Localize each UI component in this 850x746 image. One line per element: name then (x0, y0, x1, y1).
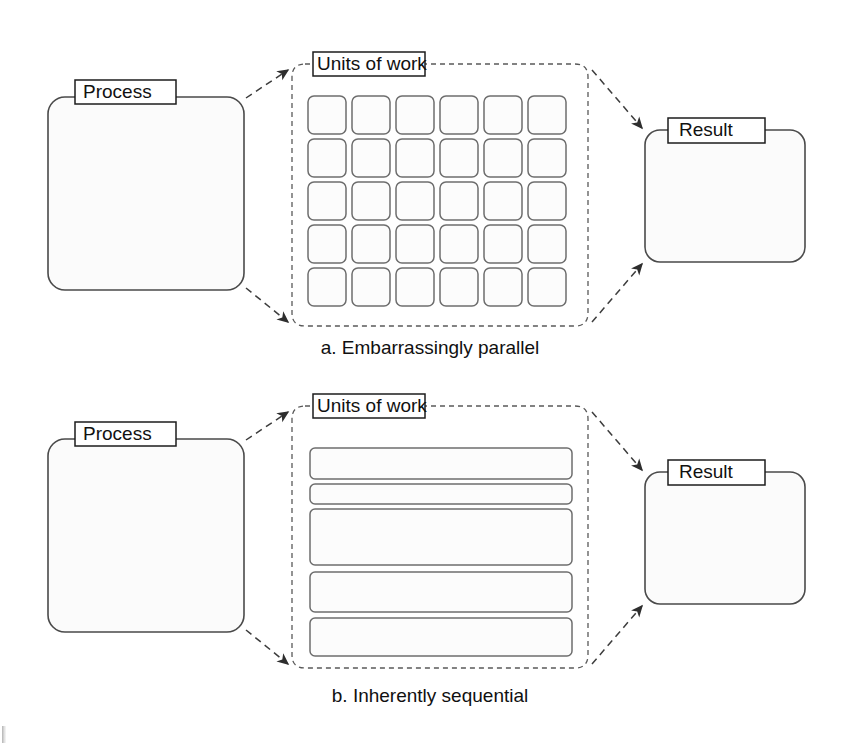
connector-process-to-units-bottom (246, 630, 288, 664)
unit-cell (308, 96, 346, 134)
unit-cell (484, 182, 522, 220)
unit-cell (484, 268, 522, 306)
unit-cell (528, 182, 566, 220)
diagram-svg: Process Units of work (0, 0, 850, 746)
connector-units-to-result-bottom (592, 606, 642, 664)
unit-cell (440, 225, 478, 263)
unit-cell (484, 96, 522, 134)
unit-cell (528, 139, 566, 177)
result-label: Result (679, 461, 734, 482)
unit-cell (528, 225, 566, 263)
scan-edge-artifact (2, 726, 6, 743)
unit-cell (396, 268, 434, 306)
result-body (645, 472, 805, 604)
unit-cell (396, 225, 434, 263)
panel-b: Process Units of work Result (48, 394, 805, 706)
unit-cell (484, 139, 522, 177)
unit-cell (352, 225, 390, 263)
unit-cell (352, 268, 390, 306)
units-label: Units of work (317, 53, 427, 74)
unit-bar (310, 484, 572, 504)
process-label: Process (83, 81, 152, 102)
unit-cell (484, 225, 522, 263)
result-box-b: Result (645, 460, 805, 604)
unit-cell (440, 182, 478, 220)
process-body (48, 97, 244, 290)
unit-cell (308, 268, 346, 306)
unit-cell (528, 96, 566, 134)
process-box-b: Process (48, 422, 244, 632)
connector-process-to-units-bottom (246, 288, 288, 322)
process-body (48, 439, 244, 632)
panel-a: Process Units of work (48, 52, 805, 358)
unit-cell (440, 139, 478, 177)
unit-cell (396, 96, 434, 134)
unit-bar (310, 618, 572, 656)
unit-bars-b (310, 448, 572, 656)
unit-cell (308, 225, 346, 263)
units-label: Units of work (317, 395, 427, 416)
unit-grid-a (308, 96, 566, 306)
result-body (645, 130, 805, 262)
unit-cell (440, 268, 478, 306)
unit-cell (440, 96, 478, 134)
unit-cell (396, 182, 434, 220)
process-box-a: Process (48, 80, 244, 290)
connector-units-to-result-bottom (592, 264, 642, 322)
process-label: Process (83, 423, 152, 444)
result-label: Result (679, 119, 734, 140)
unit-cell (352, 182, 390, 220)
result-box-a: Result (645, 118, 805, 262)
connector-units-to-result-top (592, 412, 642, 470)
unit-bar (310, 572, 572, 612)
connector-units-to-result-top (592, 70, 642, 128)
connector-process-to-units-top (246, 70, 288, 98)
connector-process-to-units-top (246, 412, 288, 440)
figure-canvas: Process Units of work (0, 0, 850, 746)
unit-cell (528, 268, 566, 306)
unit-bar (310, 448, 572, 479)
unit-cell (396, 139, 434, 177)
unit-cell (352, 96, 390, 134)
unit-cell (308, 182, 346, 220)
unit-cell (308, 139, 346, 177)
unit-cell (352, 139, 390, 177)
unit-bar (310, 509, 572, 565)
panel-a-caption: a. Embarrassingly parallel (321, 337, 540, 358)
panel-b-caption: b. Inherently sequential (332, 685, 528, 706)
